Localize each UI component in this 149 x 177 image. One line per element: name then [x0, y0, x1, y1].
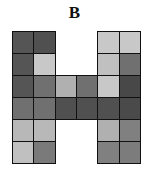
grid-cell	[119, 53, 141, 76]
grid-cell	[33, 53, 55, 76]
grid-cell	[97, 97, 119, 120]
grid-cell	[33, 31, 55, 54]
grid-cell	[119, 31, 141, 54]
grid-cell	[12, 75, 34, 98]
grid-cell	[12, 141, 34, 164]
grid-cell	[119, 75, 141, 98]
grid-cell	[97, 119, 119, 142]
grid-cell	[33, 97, 55, 120]
panel-label: B	[0, 3, 149, 23]
grid-cell	[119, 97, 141, 120]
grid-cell	[12, 119, 34, 142]
grid-cell	[12, 53, 34, 76]
grid-cell	[55, 97, 77, 120]
grid-cell	[119, 141, 141, 164]
h-shaped-cell-grid	[12, 31, 140, 163]
grid-cell	[33, 141, 55, 164]
grid-cell	[12, 97, 34, 120]
grid-cell	[97, 31, 119, 54]
grid-cell	[97, 53, 119, 76]
grid-cell	[33, 119, 55, 142]
grid-cell	[33, 75, 55, 98]
grid-cell	[12, 31, 34, 54]
grid-cell	[97, 141, 119, 164]
grid-cell	[119, 119, 141, 142]
grid-cell	[76, 97, 98, 120]
grid-cell	[97, 75, 119, 98]
grid-cell	[76, 75, 98, 98]
grid-cell	[55, 75, 77, 98]
